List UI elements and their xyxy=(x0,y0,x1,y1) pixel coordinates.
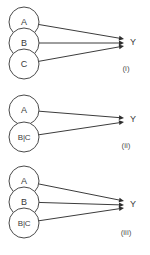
edge-arrowhead xyxy=(119,36,124,41)
predictor-node-label: B xyxy=(21,197,27,207)
path-diagram-figure: ABCY(i)AB|CY(ii)ABB|CY(iii) xyxy=(0,0,150,255)
predictor-node-label: B|C xyxy=(18,133,31,142)
predictor-node-label: A xyxy=(21,17,27,27)
outcome-node-label: Y xyxy=(130,199,136,209)
panel-caption: (ii) xyxy=(122,141,131,150)
edge-arrow-line xyxy=(39,47,119,61)
panel-caption: (iii) xyxy=(121,228,132,237)
edge-arrow-line xyxy=(39,184,119,200)
diagram-panel: ABCY(i) xyxy=(9,7,136,79)
edge-arrowhead xyxy=(119,41,124,46)
edge-arrowhead xyxy=(119,202,124,207)
edge-arrow-line xyxy=(39,123,119,135)
edge-arrow-line xyxy=(39,209,119,221)
predictor-node-label: B|C xyxy=(18,219,31,228)
diagram-panel: ABB|CY(iii) xyxy=(9,166,136,238)
edge-arrowhead xyxy=(119,115,124,120)
panel-caption: (i) xyxy=(122,64,129,73)
edge-arrow-line xyxy=(39,202,119,204)
predictor-node-label: B xyxy=(21,38,27,48)
edge-arrow-line xyxy=(39,111,119,117)
diagram-panel: AB|CY(ii) xyxy=(9,95,136,152)
edge-arrowhead xyxy=(119,206,124,211)
predictor-node-label: C xyxy=(21,59,28,69)
edge-arrowhead xyxy=(119,120,124,125)
panels-group: ABCY(i)AB|CY(ii)ABB|CY(iii) xyxy=(9,7,136,238)
edge-arrowhead xyxy=(119,45,124,50)
predictor-node-label: A xyxy=(21,176,27,186)
outcome-node-label: Y xyxy=(130,37,136,47)
edge-arrow-line xyxy=(39,25,119,39)
edge-arrowhead xyxy=(119,198,124,203)
outcome-node-label: Y xyxy=(130,114,136,124)
predictor-node-label: A xyxy=(21,105,27,115)
